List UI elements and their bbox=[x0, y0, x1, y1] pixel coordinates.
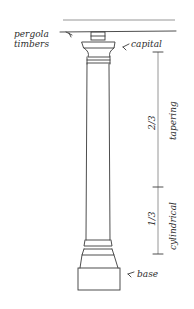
label-timbers: timbers bbox=[14, 39, 49, 49]
pergola-arrow-icon bbox=[66, 32, 72, 37]
base-arrow-icon bbox=[128, 272, 134, 277]
shaft-left-edge bbox=[86, 64, 87, 240]
capital-arrow-icon bbox=[123, 44, 129, 50]
base-torus-upper bbox=[84, 240, 112, 246]
label-upper-fraction: 2/3 bbox=[147, 115, 157, 131]
label-cylindrical: cylindrical bbox=[168, 202, 178, 250]
plinth-right-join bbox=[114, 255, 118, 268]
plinth-left-join bbox=[80, 255, 82, 268]
capital-top bbox=[82, 42, 115, 48]
shaft-right-edge bbox=[109, 64, 110, 240]
label-lower-fraction: 1/3 bbox=[147, 211, 157, 226]
capital-echinus bbox=[84, 48, 114, 57]
plinth bbox=[78, 268, 120, 290]
column-diagram: pergola timbers capital base 2/3 taperin… bbox=[0, 0, 194, 309]
base-torus-lower bbox=[82, 249, 114, 255]
label-pergola: pergola bbox=[14, 29, 49, 39]
label-tapering: tapering bbox=[168, 101, 178, 140]
pergola-bottom-line bbox=[60, 31, 176, 32]
label-capital: capital bbox=[131, 39, 162, 49]
label-base: base bbox=[137, 269, 158, 279]
